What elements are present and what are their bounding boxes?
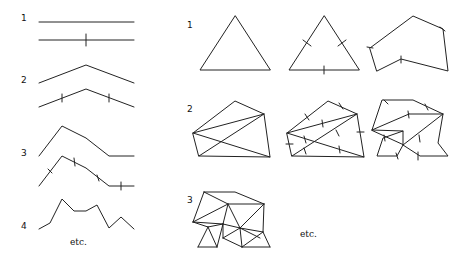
polygon bbox=[370, 16, 448, 71]
edge bbox=[228, 204, 240, 228]
left-level-1-label: 1 bbox=[21, 13, 27, 23]
right-level-1-label: 1 bbox=[187, 20, 193, 30]
tick-mark bbox=[408, 111, 409, 118]
tick-mark bbox=[304, 136, 306, 143]
polyline bbox=[39, 156, 134, 186]
left-level-1 bbox=[39, 22, 134, 46]
edge bbox=[208, 227, 217, 247]
edge bbox=[208, 224, 223, 227]
triangle bbox=[200, 16, 270, 70]
tick-mark bbox=[384, 100, 388, 104]
diagonal bbox=[199, 114, 264, 156]
diagonal bbox=[292, 114, 357, 156]
left-level-2 bbox=[39, 65, 134, 107]
right-etc-label: etc. bbox=[300, 229, 317, 239]
right-level-3-label: 3 bbox=[187, 195, 193, 205]
polyline bbox=[39, 199, 134, 229]
tick-mark bbox=[303, 40, 311, 46]
edge bbox=[204, 192, 264, 204]
polygon bbox=[287, 101, 364, 157]
polyline bbox=[39, 89, 134, 107]
edge bbox=[240, 204, 264, 228]
edge bbox=[223, 228, 240, 238]
polyline bbox=[39, 126, 134, 156]
tick-mark bbox=[440, 27, 445, 31]
right-level-2-shape-1 bbox=[193, 101, 270, 157]
tick-mark bbox=[322, 120, 323, 127]
edge bbox=[372, 114, 409, 130]
diagonal bbox=[193, 133, 270, 157]
left-level-3-label: 3 bbox=[21, 148, 27, 158]
diagonal bbox=[287, 133, 364, 157]
right-level-3-shape bbox=[193, 192, 270, 247]
left-level-2-label: 2 bbox=[21, 75, 27, 85]
polygon bbox=[372, 100, 448, 156]
tick-mark bbox=[367, 47, 373, 48]
left-level-3 bbox=[39, 126, 134, 190]
polyline bbox=[39, 65, 134, 83]
edge bbox=[204, 192, 264, 204]
triangle bbox=[289, 16, 359, 70]
diagonal bbox=[193, 114, 264, 133]
left-etc-label: etc. bbox=[70, 237, 87, 247]
edge bbox=[217, 224, 223, 247]
edge bbox=[372, 130, 403, 131]
tick-mark bbox=[419, 135, 420, 142]
edge bbox=[403, 114, 443, 145]
tick-mark bbox=[338, 40, 346, 46]
edge bbox=[223, 204, 228, 224]
right-level-2-label: 2 bbox=[187, 104, 193, 114]
right-level-1 bbox=[200, 16, 448, 74]
tick-mark bbox=[339, 146, 340, 153]
right-level-2-shape-3 bbox=[372, 100, 448, 160]
edge bbox=[240, 228, 242, 247]
polygon bbox=[193, 101, 270, 157]
tick-mark bbox=[304, 148, 306, 154]
fractal-diagram bbox=[0, 0, 469, 266]
edge bbox=[223, 238, 242, 247]
tick-mark bbox=[336, 130, 339, 136]
edge bbox=[223, 224, 240, 228]
left-level-4-label: 4 bbox=[21, 221, 27, 231]
edge bbox=[263, 232, 270, 247]
tick-mark bbox=[74, 158, 75, 166]
left-level-4 bbox=[39, 199, 134, 229]
edge bbox=[263, 204, 264, 232]
edge bbox=[198, 227, 208, 247]
right-level-2-shape-2 bbox=[286, 101, 364, 157]
